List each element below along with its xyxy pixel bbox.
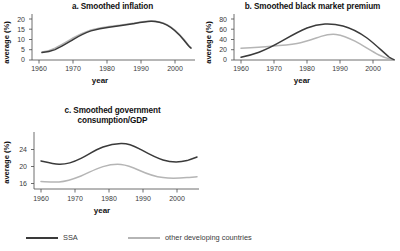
figure-root: a. Smoothed inflation average (%) 20 15 … <box>0 0 400 251</box>
panel-b-xtick-1990: 1990 <box>327 65 353 72</box>
panel-a-xtick-1970: 1970 <box>60 65 86 72</box>
legend-label-ssa: SSA <box>63 233 78 242</box>
panel-c-smoothed-government-consumption-gdp: c. Smoothed government consumption/GDP a… <box>0 104 210 219</box>
panel-a-xtick-1980: 1980 <box>94 65 120 72</box>
panel-b-ytick-40: 40 <box>210 36 227 43</box>
panel-c-title-line1: c. Smoothed government <box>30 106 195 116</box>
panel-b-xtick-1980: 1980 <box>294 65 320 72</box>
legend-label-other-developing-countries: other developing countries <box>165 233 252 242</box>
panel-a-ytick-15: 15 <box>8 26 25 33</box>
legend-item-other-developing-countries: other developing countries <box>128 233 252 242</box>
panel-a-xtick-2000: 2000 <box>162 65 188 72</box>
panel-c-ytick-20: 20 <box>10 163 27 170</box>
panel-a-xtick-1990: 1990 <box>128 65 154 72</box>
panel-b-ytick-20: 20 <box>210 46 227 53</box>
legend-swatch-other-developing-countries <box>128 237 160 239</box>
panel-c-ytick-16: 16 <box>10 180 27 187</box>
panel-c-xtick-2000: 2000 <box>164 195 190 202</box>
panel-b-ytick-0: 0 <box>210 56 227 63</box>
panel-b-title: b. Smoothed black market premium <box>225 2 400 12</box>
panel-b-xtick-2000: 2000 <box>360 65 386 72</box>
legend-swatch-ssa <box>26 237 58 239</box>
panel-b-xtick-1970: 1970 <box>261 65 287 72</box>
panel-c-xtick-1990: 1990 <box>130 195 156 202</box>
panel-c-xlabel: year <box>62 206 142 215</box>
panel-c-xtick-1970: 1970 <box>62 195 88 202</box>
panel-a-ytick-0: 0 <box>8 56 25 63</box>
legend-item-ssa: SSA <box>26 233 78 242</box>
panel-a-ytick-20: 20 <box>8 16 25 23</box>
panel-b-xlabel: year <box>262 76 342 85</box>
panel-c-plot <box>31 132 201 194</box>
panel-a-title: a. Smoothed inflation <box>30 2 195 12</box>
panel-c-xtick-1960: 1960 <box>28 195 54 202</box>
panel-b-plot <box>231 14 397 66</box>
figure-legend: SSA other developing countries <box>0 230 400 250</box>
panel-a-xtick-1960: 1960 <box>26 65 52 72</box>
panel-a-xlabel: year <box>60 76 140 85</box>
panel-c-ytick-24: 24 <box>10 146 27 153</box>
panel-c-title-line2: consumption/GDP <box>30 116 195 126</box>
panel-a-smoothed-inflation: a. Smoothed inflation average (%) 20 15 … <box>0 0 200 95</box>
panel-a-plot <box>29 14 197 66</box>
panel-a-ytick-10: 10 <box>8 36 25 43</box>
panel-b-ytick-60: 60 <box>210 26 227 33</box>
panel-a-ytick-5: 5 <box>8 46 25 53</box>
panel-c-xtick-1980: 1980 <box>96 195 122 202</box>
panel-b-ytick-80: 80 <box>210 16 227 23</box>
panel-b-smoothed-black-market-premium: b. Smoothed black market premium average… <box>200 0 400 95</box>
panel-b-xtick-1960: 1960 <box>228 65 254 72</box>
